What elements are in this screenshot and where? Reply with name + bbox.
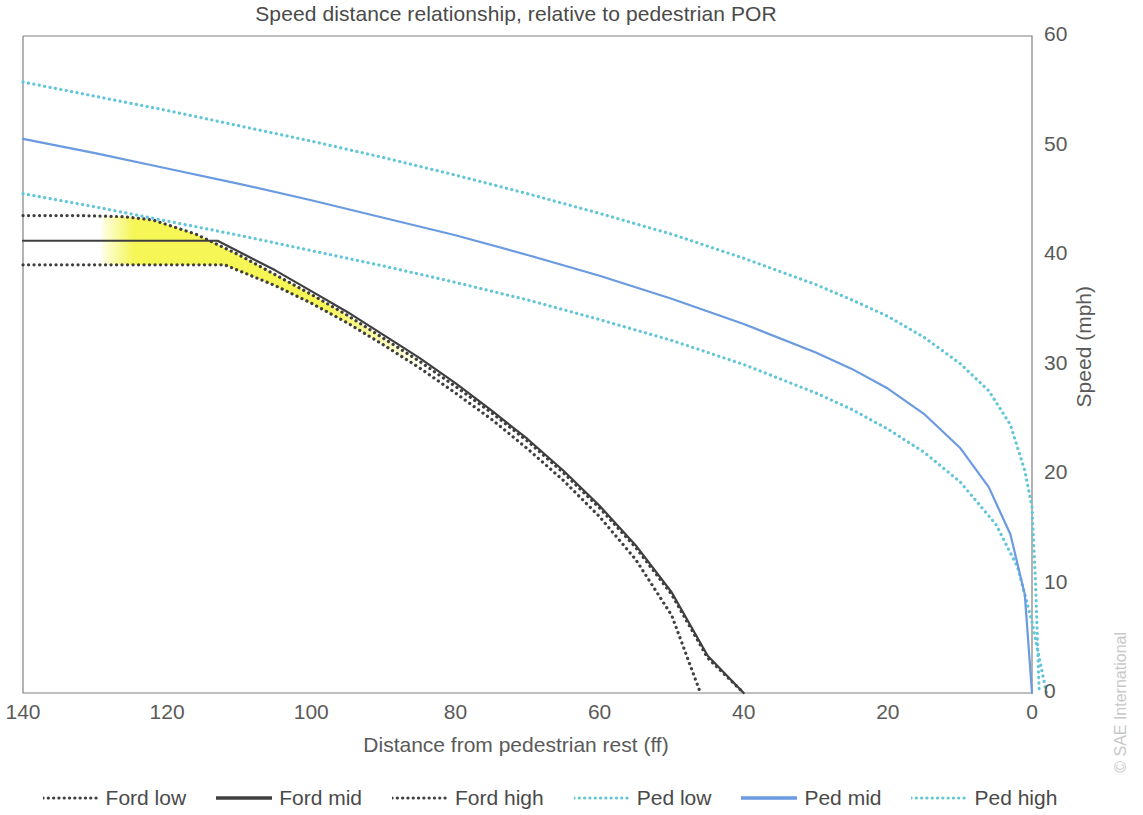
- legend-label: Ped low: [637, 786, 712, 810]
- legend-item-ford-low[interactable]: Ford low: [43, 786, 187, 810]
- series-line-ped-low: [23, 194, 1046, 693]
- x-tick-label: 40: [714, 700, 774, 724]
- legend-item-ford-mid[interactable]: Ford mid: [216, 786, 362, 810]
- x-tick-label: 80: [425, 700, 485, 724]
- legend-label: Ped high: [974, 786, 1057, 810]
- x-tick-label: 140: [0, 700, 53, 724]
- legend-item-ped-low[interactable]: Ped low: [574, 786, 712, 810]
- x-tick-label: 0: [1002, 700, 1062, 724]
- legend-label: Ford mid: [279, 786, 362, 810]
- x-tick-label: 120: [137, 700, 197, 724]
- legend-swatch-solid: [216, 791, 272, 805]
- legend-label: Ford high: [455, 786, 544, 810]
- plot-frame: [23, 36, 1032, 693]
- x-tick-label: 20: [858, 700, 918, 724]
- x-axis-title: Distance from pedestrian rest (ff): [0, 733, 1032, 757]
- y-tick-label: 40: [1044, 241, 1067, 265]
- legend-item-ford-high[interactable]: Ford high: [392, 786, 544, 810]
- series-line-ford-mid: [23, 241, 744, 693]
- y-tick-label: 50: [1044, 132, 1067, 156]
- legend-swatch-dotted: [911, 791, 967, 805]
- y-tick-label: 10: [1044, 570, 1067, 594]
- legend-swatch-solid: [741, 791, 797, 805]
- plot-canvas: [0, 0, 1143, 760]
- legend-swatch-dotted: [392, 791, 448, 805]
- legend-item-ped-mid[interactable]: Ped mid: [741, 786, 881, 810]
- chart-legend: Ford lowFord midFord highPed lowPed midP…: [0, 786, 1100, 810]
- copyright-watermark: © SAE International: [1112, 632, 1130, 773]
- legend-swatch-dotted: [574, 791, 630, 805]
- y-axis-title: Speed (mph): [1072, 286, 1096, 407]
- y-tick-label: 30: [1044, 351, 1067, 375]
- legend-label: Ped mid: [804, 786, 881, 810]
- chart-figure: Speed distance relationship, relative to…: [0, 0, 1143, 815]
- y-tick-label: 60: [1044, 22, 1067, 46]
- legend-label: Ford low: [106, 786, 187, 810]
- x-tick-label: 60: [570, 700, 630, 724]
- y-tick-label: 20: [1044, 460, 1067, 484]
- x-tick-label: 100: [281, 700, 341, 724]
- legend-item-ped-high[interactable]: Ped high: [911, 786, 1057, 810]
- legend-swatch-dotted: [43, 791, 99, 805]
